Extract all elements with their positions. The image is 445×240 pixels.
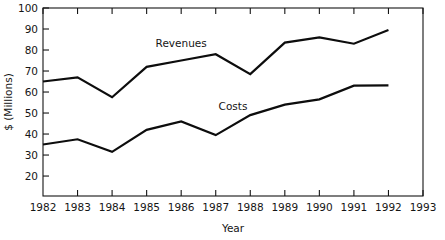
x-tick-label-1993: 1993	[410, 201, 437, 213]
y-tick-label-100: 100	[18, 2, 38, 14]
y-tick-label-20: 20	[25, 170, 38, 182]
series-line-revenues	[43, 30, 388, 97]
series-line-costs	[43, 85, 388, 152]
x-tick-label-1988: 1988	[237, 201, 264, 213]
y-tick-label-90: 90	[25, 23, 38, 35]
y-tick-label-60: 60	[25, 86, 38, 98]
y-tick-label-80: 80	[25, 44, 38, 56]
y-tick-label-70: 70	[25, 65, 38, 77]
y-axis-title: $ (Millions)	[2, 73, 14, 131]
x-tick-label-1992: 1992	[375, 201, 402, 213]
chart-container: 1982198319841985198619871988198919901991…	[0, 0, 445, 240]
x-tick-label-1989: 1989	[271, 201, 298, 213]
x-tick-label-1987: 1987	[202, 201, 229, 213]
line-chart: 1982198319841985198619871988198919901991…	[0, 0, 445, 240]
x-tick-label-1983: 1983	[64, 201, 91, 213]
x-tick-label-1990: 1990	[306, 201, 333, 213]
x-tick-label-1991: 1991	[341, 201, 368, 213]
x-tick-label-1986: 1986	[168, 201, 195, 213]
y-tick-label-40: 40	[25, 128, 38, 140]
series-label-revenues: Revenues	[156, 37, 207, 49]
x-tick-label-1982: 1982	[30, 201, 57, 213]
y-tick-label-30: 30	[25, 149, 38, 161]
x-tick-label-1985: 1985	[133, 201, 160, 213]
x-axis-title: Year	[221, 222, 245, 234]
y-tick-label-50: 50	[25, 107, 38, 119]
x-tick-label-1984: 1984	[99, 201, 126, 213]
series-label-costs: Costs	[219, 100, 248, 112]
